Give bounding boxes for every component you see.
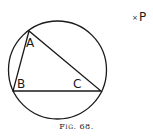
vertex-label-c: C [73, 77, 81, 91]
vertex-label-a: A [26, 36, 35, 50]
point-p-marker-icon: × [132, 14, 138, 22]
circumcircle [9, 21, 107, 119]
point-label-p: P [139, 10, 146, 24]
geometry-figure: A B C × P [0, 0, 153, 138]
vertex-label-b: B [17, 77, 25, 91]
figure-caption: Fig. 68. [0, 122, 153, 131]
